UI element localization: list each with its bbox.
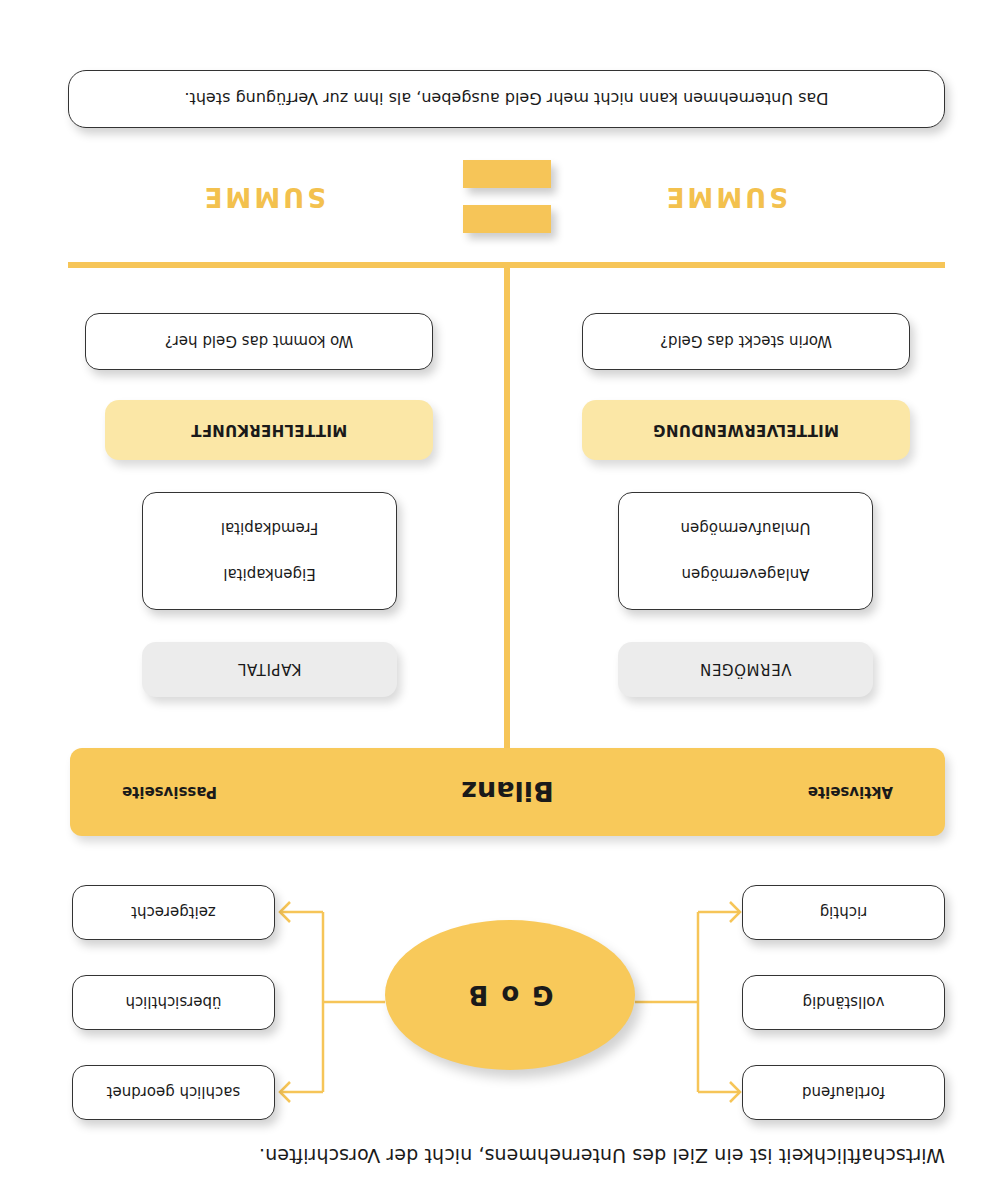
aktiva-question: Worin steckt das Geld? bbox=[660, 333, 832, 351]
summe-left: SUMME bbox=[664, 182, 788, 212]
aktiva-question-box: Worin steckt das Geld? bbox=[582, 313, 910, 370]
eigenkapital: Eigenkapital bbox=[223, 565, 315, 583]
aktivseite-label: Aktivseite bbox=[808, 748, 893, 836]
fremdkapital: Fremdkapital bbox=[221, 519, 318, 537]
mittelverwendung-label: MITTELVERWENDUNG bbox=[582, 400, 910, 460]
kapital-label: KAPITAL bbox=[142, 642, 397, 697]
vertical-divider bbox=[504, 263, 510, 748]
note-box: Das Unternehmen kann nicht mehr Geld aus… bbox=[68, 70, 945, 128]
bilanz-bar: Bilanz Aktivseite Passivseite bbox=[70, 748, 945, 836]
note-text: Das Unternehmen kann nicht mehr Geld aus… bbox=[184, 90, 828, 109]
gob-item-zeitgerecht: zeitgerecht bbox=[72, 885, 275, 940]
mittelherkunft-text: MITTELHERKUNFT bbox=[191, 421, 347, 439]
equals-bar-lower bbox=[463, 205, 551, 233]
gob-item-vollstaendig: vollständig bbox=[742, 975, 945, 1030]
bilanz-diagram: Wirtschaftlichkeit ist ein Ziel des Unte… bbox=[0, 0, 988, 1195]
gob-item-label: sachlich geordnet bbox=[107, 1084, 241, 1102]
gob-item-label: übersichtlich bbox=[125, 994, 221, 1012]
kapital-items-box: Eigenkapital Fremdkapital bbox=[142, 492, 397, 610]
equals-bar-upper bbox=[463, 160, 551, 188]
anlagevermoegen: Anlagevermögen bbox=[682, 565, 810, 583]
gob-item-fortlaufend: fortlaufend bbox=[742, 1065, 945, 1120]
gob-item-label: fortlaufend bbox=[802, 1084, 885, 1102]
mittelherkunft-label: MITTELHERKUNFT bbox=[105, 400, 433, 460]
gob-item-richtig: richtig bbox=[742, 885, 945, 940]
horizontal-divider bbox=[68, 262, 945, 268]
vermoegen-label: VERMÖGEN bbox=[618, 642, 873, 697]
gob-item-sachlich-geordnet: sachlich geordnet bbox=[72, 1065, 275, 1120]
mittelverwendung-text: MITTELVERWENDUNG bbox=[653, 421, 839, 439]
gob-item-label: vollständig bbox=[803, 994, 885, 1012]
passivseite-label: Passivseite bbox=[122, 748, 217, 836]
passiva-question-box: Wo kommt das Geld her? bbox=[85, 313, 433, 370]
vermoegen-text: VERMÖGEN bbox=[699, 661, 791, 679]
gob-label: G o B bbox=[466, 980, 553, 1010]
passiva-question: Wo kommt das Geld her? bbox=[165, 333, 354, 351]
summe-right: SUMME bbox=[202, 182, 326, 212]
gob-item-uebersichtlich: übersichtlich bbox=[72, 975, 275, 1030]
gob-item-label: richtig bbox=[820, 904, 868, 922]
umlaufvermoegen: Umlaufvermögen bbox=[681, 519, 811, 537]
gob-item-label: zeitgerecht bbox=[131, 904, 216, 922]
kapital-text: KAPITAL bbox=[237, 661, 301, 679]
gob-ellipse: G o B bbox=[385, 920, 635, 1070]
vermoegen-items-box: Anlagevermögen Umlaufvermögen bbox=[618, 492, 873, 610]
